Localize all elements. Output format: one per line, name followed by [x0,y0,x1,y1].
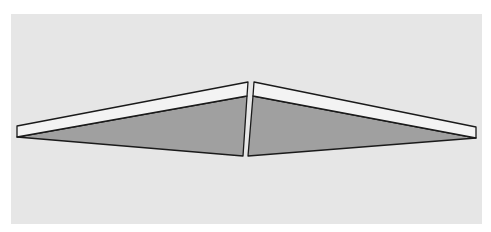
wedge-diagram [0,0,491,232]
